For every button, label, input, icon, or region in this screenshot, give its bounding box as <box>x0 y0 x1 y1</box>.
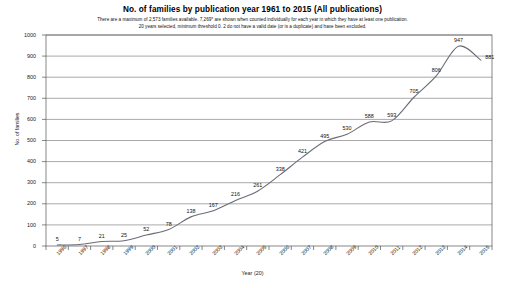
data-point-label: 78 <box>166 221 172 227</box>
data-point-label: 7 <box>78 236 81 242</box>
y-tick-label: 800 <box>10 74 36 80</box>
y-tick-label: 700 <box>10 95 36 101</box>
y-tick-label: 1000 <box>10 32 36 38</box>
y-tick-label: 200 <box>10 200 36 206</box>
data-point-label: 25 <box>121 232 127 238</box>
data-point-label: 52 <box>143 226 149 232</box>
y-tick-label: 300 <box>10 179 36 185</box>
y-tick-label: 100 <box>10 222 36 228</box>
y-tick-label: 0 <box>10 243 36 249</box>
chart-container: No. of families by publication year 1961… <box>0 0 505 288</box>
y-tick-label: 500 <box>10 137 36 143</box>
y-tick-label: 600 <box>10 116 36 122</box>
data-point-label: 138 <box>186 208 195 214</box>
data-point-label: 881 <box>485 54 494 60</box>
data-point-label: 421 <box>298 148 307 154</box>
data-point-label: 530 <box>343 125 352 131</box>
data-point-label: 588 <box>365 113 374 119</box>
data-point-label: 216 <box>231 191 240 197</box>
y-tick-label: 900 <box>10 53 36 59</box>
data-point-label: 705 <box>409 88 418 94</box>
data-point-label: 495 <box>320 133 329 139</box>
y-tick-label: 400 <box>10 158 36 164</box>
data-point-label: 806 <box>432 67 441 73</box>
data-point-label: 261 <box>253 182 262 188</box>
data-point-label: 167 <box>209 202 218 208</box>
data-point-label: 21 <box>99 233 105 239</box>
data-point-label: 947 <box>454 37 463 43</box>
data-point-label: 593 <box>387 112 396 118</box>
plot-area <box>0 0 505 288</box>
data-series-line <box>57 46 481 245</box>
data-point-label: 5 <box>56 236 59 242</box>
data-point-label: 338 <box>276 166 285 172</box>
y-axis-ticks <box>42 35 46 246</box>
gridlines <box>46 35 492 225</box>
x-axis-ticks <box>46 246 492 250</box>
